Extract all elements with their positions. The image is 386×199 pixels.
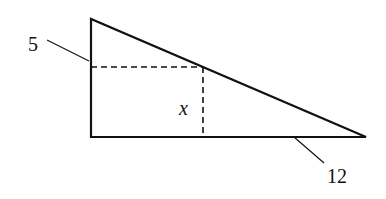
triangle-diagram: 5 12 x [0, 0, 386, 199]
rectangle-height-label: x [178, 97, 188, 119]
bottom-side-leader-line [294, 137, 324, 163]
right-triangle [91, 19, 366, 137]
bottom-side-label: 12 [327, 165, 347, 187]
left-side-label: 5 [28, 33, 38, 55]
left-side-leader-line [47, 40, 89, 61]
